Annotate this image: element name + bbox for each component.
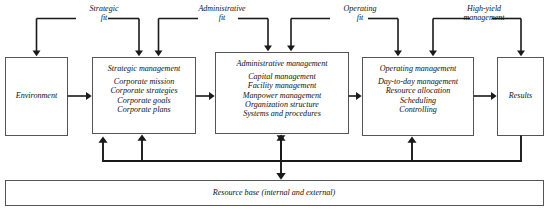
management-flow-diagram: Strategic fit Administrative fit Operati… <box>0 0 549 212</box>
label-strategic-fit-line1: Strategic <box>68 4 140 13</box>
label-high-yield-management: High-yield management <box>445 4 523 22</box>
box-environment <box>6 58 68 136</box>
box-operating-management <box>363 58 474 136</box>
label-strategic-fit-line2: fit <box>68 13 140 22</box>
label-administrative-fit-line2: fit <box>176 13 268 22</box>
feedback-results-to-environment <box>103 136 521 162</box>
label-operating-fit-line1: Operating <box>322 4 398 13</box>
label-administrative-fit-line1: Administrative <box>176 4 268 13</box>
box-administrative-management <box>216 53 349 134</box>
label-high-yield-line2: management <box>445 13 523 22</box>
label-operating-fit-line2: fit <box>322 13 398 22</box>
box-results <box>498 58 544 136</box>
label-high-yield-line1: High-yield <box>445 4 523 13</box>
label-operating-fit: Operating fit <box>322 4 398 22</box>
label-administrative-fit: Administrative fit <box>176 4 268 22</box>
box-strategic-management <box>93 58 196 134</box>
diagram-canvas <box>0 0 549 212</box>
label-strategic-fit: Strategic fit <box>68 4 140 22</box>
box-resource-base-label: Resource base (internal and external) <box>5 188 543 197</box>
